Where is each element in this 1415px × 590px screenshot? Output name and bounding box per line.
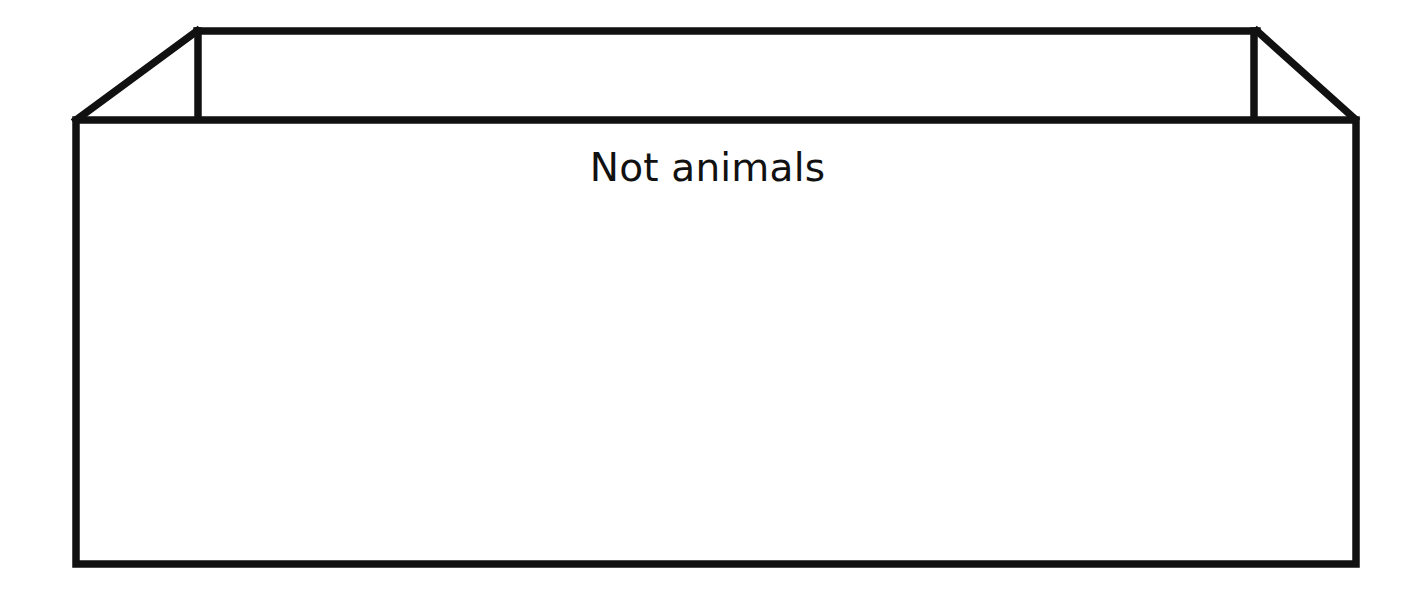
open-box-drawing: [0, 0, 1415, 590]
box-label: Not animals: [0, 145, 1415, 190]
box-right-diagonal-edge: [1257, 31, 1355, 119]
box-left-diagonal-edge: [76, 31, 197, 120]
sorting-box-diagram: Not animals: [0, 0, 1415, 590]
